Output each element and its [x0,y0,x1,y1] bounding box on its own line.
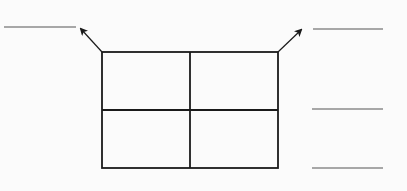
arrow-up-right-icon [278,30,301,52]
grid-cell-top-left[interactable] [103,53,189,109]
grid-cell-bottom-right[interactable] [191,111,277,167]
worksheet-canvas [0,0,407,191]
diagram-svg [0,0,407,191]
two-by-two-grid [102,52,278,168]
grid-cell-top-right[interactable] [191,53,277,109]
grid-cell-bottom-left[interactable] [103,111,189,167]
arrow-up-left-icon [81,29,102,52]
